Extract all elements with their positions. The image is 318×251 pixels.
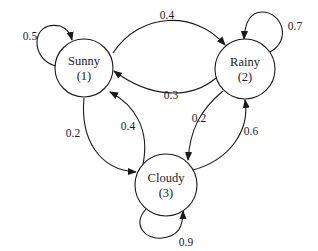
edge-rainy-cloudy [188, 91, 223, 160]
node-cloudy: Cloudy (3) [135, 154, 197, 216]
edge-label-sunny-rainy: 0.4 [160, 9, 175, 21]
node-cloudy-name: Cloudy [148, 171, 186, 185]
edge-cloudy-rainy [193, 100, 246, 170]
edge-label-rainy-sunny: 0.3 [164, 89, 179, 101]
edge-label-rainy-rainy: 0.7 [288, 20, 303, 32]
node-rainy-name: Rainy [230, 55, 261, 69]
edge-sunny-rainy [113, 20, 225, 53]
edge-label-rainy-cloudy: 0.2 [192, 112, 207, 124]
node-sunny-index: (1) [77, 69, 92, 83]
node-cloudy-index: (3) [159, 186, 174, 200]
edge-label-cloudy-sunny: 0.4 [121, 120, 136, 132]
edge-label-sunny-sunny: 0.5 [23, 30, 38, 42]
edge-label-cloudy-rainy: 0.6 [244, 125, 259, 137]
node-sunny-name: Sunny [68, 54, 101, 68]
edge-label-sunny-cloudy: 0.2 [66, 127, 81, 139]
node-rainy: Rainy (2) [215, 39, 275, 99]
edge-label-cloudy-cloudy: 0.9 [179, 236, 194, 248]
node-rainy-index: (2) [238, 70, 253, 84]
edge-sunny-cloudy [83, 98, 136, 172]
markov-chain-diagram: 0.5 0.4 0.3 0.7 0.2 0.4 0.2 0.6 0.9 Sunn… [0, 0, 318, 251]
node-sunny: Sunny (1) [55, 39, 113, 97]
